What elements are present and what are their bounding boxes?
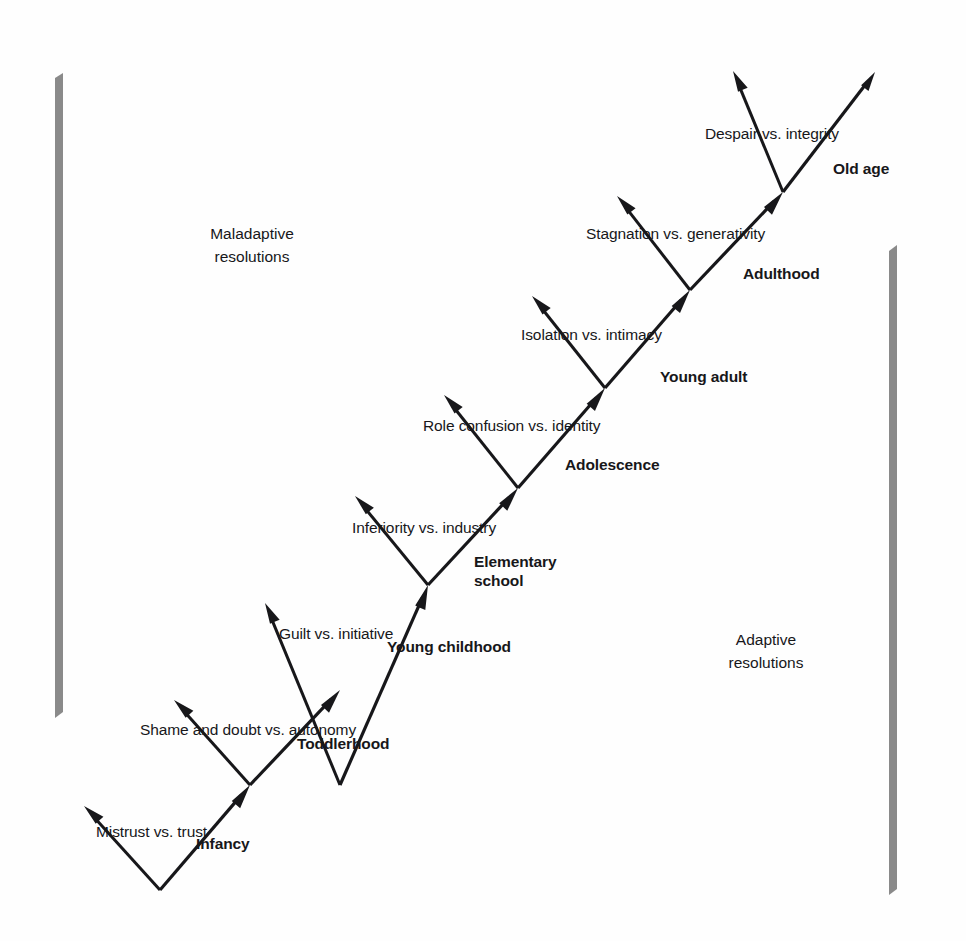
- erikson-stages-diagram: Maladaptive resolutions Adaptive resolut…: [0, 0, 966, 941]
- maladaptive-branch-6: [626, 207, 690, 290]
- stage-label-3: Elementary school: [474, 553, 557, 591]
- maladaptive-arrowhead-3: [355, 496, 374, 514]
- maladaptive-arrowhead-6: [617, 196, 636, 215]
- maladaptive-arrowhead-0: [84, 806, 103, 824]
- stage-label-6: Adulthood: [743, 265, 820, 284]
- maladaptive-arrowhead-5: [532, 296, 551, 314]
- maladaptive-arrowhead-2: [265, 603, 280, 624]
- crisis-label-2: Guilt vs. initiative: [279, 626, 393, 642]
- crisis-label-7: Despair vs. integrity: [705, 126, 839, 142]
- maladaptive-arrowhead-4: [444, 395, 463, 413]
- maladaptive-arrowhead-1: [174, 700, 193, 718]
- crisis-label-4: Role confusion vs. identity: [423, 418, 600, 434]
- crisis-label-5: Isolation vs. intimacy: [521, 327, 662, 343]
- stage-label-2: Young childhood: [387, 638, 511, 657]
- stage-label-5: Young adult: [660, 368, 747, 387]
- right-rail-bar: [889, 245, 897, 895]
- adaptive-pole-label: Adaptive resolutions: [692, 628, 840, 675]
- stage-label-7: Old age: [833, 160, 889, 179]
- stage-label-1: Toddlerhood: [297, 735, 389, 754]
- stage-geometry-group: [84, 71, 875, 890]
- crisis-label-6: Stagnation vs. generativity: [586, 226, 765, 242]
- crisis-label-0: Mistrust vs. trust: [96, 824, 207, 840]
- left-rail-bar: [55, 73, 63, 718]
- maladaptive-branch-5: [541, 307, 605, 388]
- maladaptive-pole-label: Maladaptive resolutions: [178, 222, 326, 269]
- crisis-label-3: Inferiority vs. industry: [352, 520, 496, 536]
- stage-label-4: Adolescence: [565, 456, 660, 475]
- maladaptive-arrowhead-7: [733, 71, 748, 92]
- stage-label-0: Infancy: [196, 835, 250, 854]
- adaptive-arrowhead-2: [415, 585, 428, 610]
